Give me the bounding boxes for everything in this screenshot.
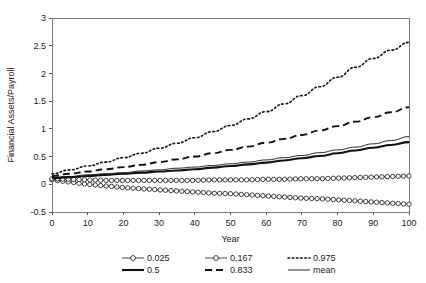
- y-tick-label: 3: [41, 13, 46, 23]
- series-marker: [169, 188, 173, 192]
- x-tick-label: 100: [401, 218, 416, 228]
- series-marker: [142, 178, 146, 182]
- legend-label-0.167: 0.167: [230, 253, 253, 263]
- series-marker: [266, 194, 270, 198]
- series-marker: [353, 199, 357, 203]
- x-tick-label: 0: [49, 218, 54, 228]
- series-marker: [147, 178, 151, 182]
- series-marker: [234, 192, 238, 196]
- x-axis-title: Year: [221, 234, 239, 244]
- x-tick-label: 40: [190, 218, 200, 228]
- series-marker: [255, 177, 259, 181]
- series-marker: [293, 177, 297, 181]
- series-marker: [131, 186, 135, 190]
- series-marker: [98, 183, 102, 187]
- y-tick-label: -0.5: [30, 207, 46, 217]
- series-marker: [174, 189, 178, 193]
- series-marker: [266, 177, 270, 181]
- series-marker: [207, 178, 211, 182]
- series-marker: [336, 198, 340, 202]
- series-marker: [250, 193, 254, 197]
- x-tick-label: 80: [333, 218, 343, 228]
- series-marker: [288, 177, 292, 181]
- x-axis-ticks: 0102030405060708090100: [49, 212, 416, 228]
- x-tick-label: 30: [154, 218, 164, 228]
- series-marker: [201, 178, 205, 182]
- series-marker: [407, 174, 411, 178]
- series-marker: [315, 196, 319, 200]
- series-marker: [223, 191, 227, 195]
- series-marker: [196, 190, 200, 194]
- series-marker: [120, 185, 124, 189]
- y-tick-label: 0.5: [33, 152, 46, 162]
- legend-item-0.833[interactable]: 0.833: [205, 265, 253, 275]
- series-marker: [277, 195, 281, 199]
- series-marker: [153, 178, 157, 182]
- series-marker: [190, 178, 194, 182]
- series-marker: [158, 188, 162, 192]
- series-marker: [250, 178, 254, 182]
- legend-item-0.5[interactable]: 0.5: [122, 265, 160, 275]
- series-marker: [120, 178, 124, 182]
- series-marker: [374, 175, 378, 179]
- series-line-0.975: [52, 42, 409, 173]
- series-marker: [223, 178, 227, 182]
- series-marker: [347, 198, 351, 202]
- series-marker: [217, 191, 221, 195]
- series-marker: [272, 177, 276, 181]
- series-marker: [207, 191, 211, 195]
- series-marker: [98, 178, 102, 182]
- series-marker: [380, 175, 384, 179]
- series-marker: [212, 178, 216, 182]
- legend-label-0.975: 0.975: [313, 253, 336, 263]
- series-marker: [136, 186, 140, 190]
- x-tick-label: 90: [368, 218, 378, 228]
- legend-item-0.025[interactable]: 0.025: [122, 253, 170, 263]
- series-marker: [401, 202, 405, 206]
- series-marker: [326, 197, 330, 201]
- series-marker: [261, 194, 265, 198]
- series-marker: [364, 199, 368, 203]
- series-marker: [163, 178, 167, 182]
- legend-item-0.167[interactable]: 0.167: [205, 253, 253, 263]
- series-marker: [185, 178, 189, 182]
- x-tick-label: 20: [118, 218, 128, 228]
- series-marker: [347, 176, 351, 180]
- series-marker: [261, 177, 265, 181]
- series-marker: [255, 193, 259, 197]
- series-marker: [282, 195, 286, 199]
- series-marker: [104, 178, 108, 182]
- series-marker: [272, 194, 276, 198]
- series-marker: [396, 174, 400, 178]
- y-axis-title: Financial Assets/Payroll: [6, 67, 16, 162]
- series-marker: [380, 200, 384, 204]
- legend-marker-0.167: [214, 256, 219, 261]
- y-tick-label: 2.5: [33, 41, 46, 51]
- series-marker: [391, 174, 395, 178]
- series-marker: [304, 196, 308, 200]
- series-marker: [331, 197, 335, 201]
- series-marker: [212, 191, 216, 195]
- x-tick-label: 70: [297, 218, 307, 228]
- series-marker: [358, 175, 362, 179]
- series-mean: [52, 137, 409, 178]
- series-marker: [82, 178, 86, 182]
- series-marker: [147, 187, 151, 191]
- series-marker: [396, 201, 400, 205]
- y-tick-label: 0: [41, 179, 46, 189]
- legend-item-mean[interactable]: mean: [288, 265, 336, 275]
- series-marker: [180, 178, 184, 182]
- y-tick-label: 2: [41, 69, 46, 79]
- legend-marker-0.025: [131, 256, 136, 261]
- series-marker: [288, 195, 292, 199]
- legend-item-0.975[interactable]: 0.975: [288, 253, 336, 263]
- series-marker: [174, 178, 178, 182]
- series-marker: [342, 176, 346, 180]
- series-marker: [304, 177, 308, 181]
- series-marker: [217, 178, 221, 182]
- series-marker: [201, 190, 205, 194]
- series-marker: [104, 184, 108, 188]
- series-marker: [385, 201, 389, 205]
- series-marker: [282, 177, 286, 181]
- series-marker: [131, 178, 135, 182]
